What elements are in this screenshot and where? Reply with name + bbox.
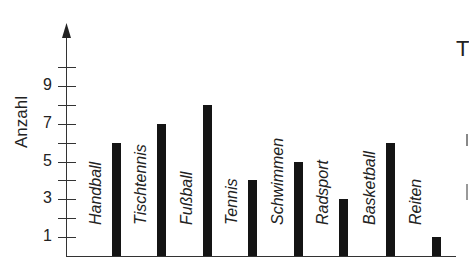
cut-off-text: T: [456, 36, 469, 62]
cut-off-fragment: [466, 184, 468, 200]
bar-handball: [112, 143, 121, 256]
y-tick: [58, 199, 76, 200]
y-tick: [58, 143, 76, 144]
category-label: Tennis: [224, 178, 240, 225]
bar-schwimmen: [294, 162, 303, 256]
category-label: Fußball: [179, 172, 195, 225]
category-label: Schwimmen: [270, 138, 286, 225]
category-label: Reiten: [408, 179, 424, 225]
y-tick-label: 5: [36, 152, 52, 170]
y-tick: [58, 67, 76, 68]
category-label: Radsport: [315, 160, 331, 225]
category-label: Handball: [88, 162, 104, 225]
bar-tischtennis: [157, 124, 166, 256]
bar-basketball: [386, 143, 395, 256]
y-axis-label: Anzahl: [12, 96, 32, 148]
y-tick: [58, 218, 76, 219]
bar-reiten: [432, 237, 441, 256]
y-tick-label: 9: [36, 76, 52, 94]
y-tick: [58, 180, 76, 181]
bar-radsport: [339, 199, 348, 256]
y-tick: [58, 237, 76, 238]
category-label: Tischtennis: [133, 144, 149, 225]
y-tick-label: 3: [36, 189, 52, 207]
y-tick-label: 1: [36, 227, 52, 245]
cut-off-fragment: [466, 134, 468, 146]
y-tick: [58, 105, 76, 106]
x-axis: [66, 256, 456, 257]
y-axis-arrow-icon: [61, 23, 72, 39]
y-tick: [58, 162, 76, 163]
bar-fußball: [203, 105, 212, 256]
y-tick: [58, 86, 76, 87]
bar-tennis: [248, 180, 257, 256]
category-label: Basketball: [362, 151, 378, 225]
y-tick-label: 7: [36, 114, 52, 132]
y-tick: [58, 124, 76, 125]
